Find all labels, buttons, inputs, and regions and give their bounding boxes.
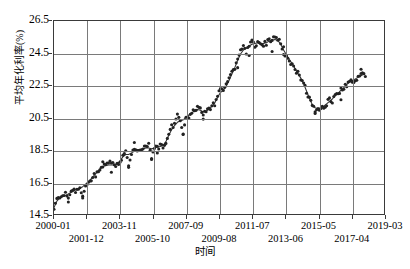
data-point (265, 44, 268, 47)
y-tick-mark (48, 85, 52, 86)
x-tick-label: 2005-10 (135, 233, 170, 244)
data-point-outlier (101, 160, 104, 163)
data-point (325, 104, 328, 107)
data-point (190, 112, 193, 115)
gridline-vertical (353, 21, 354, 214)
data-series-svg (54, 21, 384, 214)
gridline-vertical (154, 21, 155, 214)
gridline-vertical (220, 21, 221, 214)
x-tick-label: 2017-04 (334, 233, 369, 244)
data-point (305, 92, 308, 95)
data-point (275, 36, 278, 39)
data-point (101, 166, 104, 169)
data-point (74, 191, 77, 194)
data-point (199, 106, 202, 109)
data-point (54, 208, 56, 211)
y-tick-label: 24.5 (1, 47, 49, 59)
data-point (172, 126, 175, 129)
data-point (226, 80, 229, 83)
data-point (210, 104, 213, 107)
data-point (262, 45, 265, 48)
gridline-horizontal (54, 119, 384, 120)
x-tick-mark (119, 215, 120, 219)
data-point (215, 98, 218, 101)
gridline-horizontal (54, 151, 384, 152)
data-point (170, 123, 173, 126)
data-point (94, 175, 97, 178)
x-tick-mark (53, 215, 54, 219)
data-point (309, 99, 312, 102)
data-point-outlier (236, 66, 239, 69)
data-point (164, 142, 167, 145)
x-tick-mark (186, 215, 187, 219)
x-tick-mark (352, 215, 353, 219)
data-point (288, 59, 291, 62)
data-point (123, 152, 126, 155)
y-tick-mark (48, 183, 52, 184)
data-point (80, 191, 83, 194)
data-point (130, 153, 133, 156)
data-point (328, 96, 331, 99)
data-point (169, 128, 172, 131)
data-point (233, 68, 236, 71)
gridline-horizontal (54, 86, 384, 87)
data-point (156, 145, 159, 148)
x-tick-label: 2013-06 (268, 233, 303, 244)
data-point (308, 96, 311, 99)
data-point (342, 88, 345, 91)
x-tick-mark (385, 215, 386, 219)
data-point (362, 72, 365, 75)
x-tick-label: 2011-07 (235, 220, 270, 231)
data-point-outlier (339, 98, 342, 101)
data-point (235, 61, 238, 64)
data-point (54, 202, 57, 205)
data-point (364, 75, 367, 78)
x-tick-label: 2019-03 (368, 220, 403, 231)
x-axis-title: 时间 (0, 246, 410, 257)
data-point (298, 74, 301, 77)
gridline-vertical (320, 21, 321, 214)
data-point (98, 168, 101, 171)
y-tick-mark (48, 118, 52, 119)
x-tick-mark (319, 215, 320, 219)
data-point-outlier (359, 68, 362, 71)
data-point (200, 111, 203, 114)
gridline-vertical (253, 21, 254, 214)
data-point (268, 37, 271, 40)
data-point (93, 172, 96, 175)
y-tick-mark (48, 20, 52, 21)
data-point (180, 126, 183, 129)
data-point (209, 108, 212, 111)
y-axis-title: 平均年化利率(%) (14, 3, 25, 133)
data-point-outlier (150, 157, 153, 160)
chart-figure: 14.516.518.520.522.524.526.5 平均年化利率(%) 2… (0, 0, 410, 269)
data-point-outlier (127, 166, 130, 169)
y-tick-label: 26.5 (1, 14, 49, 26)
data-point (236, 58, 239, 61)
data-point (229, 73, 232, 76)
data-point-outlier (182, 133, 185, 136)
data-point-outlier (67, 200, 70, 203)
y-tick-mark (48, 53, 52, 54)
data-point (263, 40, 266, 43)
trend-line (54, 39, 364, 207)
data-point (202, 114, 205, 117)
data-point (91, 176, 94, 179)
data-point (296, 70, 299, 73)
data-point (248, 45, 251, 48)
data-point (146, 145, 149, 148)
data-point (160, 143, 163, 146)
data-point (279, 42, 282, 45)
data-point (126, 156, 129, 159)
data-point (240, 48, 243, 51)
y-tick-mark (48, 150, 52, 151)
data-point (83, 190, 86, 193)
x-tick-label: 2000-01 (36, 220, 71, 231)
data-point (222, 89, 225, 92)
data-point (68, 193, 71, 196)
data-point-outlier (81, 196, 84, 199)
data-point (64, 191, 67, 194)
data-point (355, 79, 358, 82)
data-point (128, 158, 131, 161)
data-point (166, 137, 169, 140)
